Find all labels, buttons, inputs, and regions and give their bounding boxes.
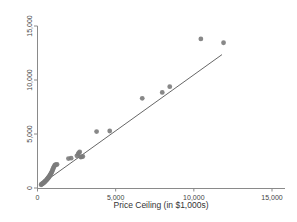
x-axis-title: Price Ceiling (in $1,000s)	[114, 200, 209, 210]
regression-line	[40, 55, 222, 185]
y-tick-label-group: 05,00010,00015,000	[26, 15, 33, 190]
data-point	[94, 129, 99, 134]
x-tick-label: 0	[36, 194, 40, 201]
data-point	[55, 162, 60, 167]
scatter-plot: 05,00010,00015,000 05,00010,00015,000 Pr…	[0, 0, 297, 222]
y-tick-label: 10,000	[26, 69, 33, 91]
chart-figure: 05,00010,00015,000 05,00010,00015,000 Pr…	[0, 0, 297, 222]
data-point	[80, 154, 85, 159]
y-tick-label: 15,000	[26, 15, 33, 37]
data-point-group	[39, 37, 226, 188]
y-tick-group	[34, 26, 38, 188]
data-point	[77, 150, 82, 155]
x-tick-label: 15,000	[261, 194, 283, 201]
data-point	[198, 37, 203, 42]
data-point	[221, 40, 226, 45]
y-tick-label: 5,000	[26, 125, 33, 143]
data-point	[69, 156, 74, 161]
y-tick-label: 0	[26, 186, 33, 190]
data-point	[107, 129, 112, 134]
data-point	[167, 84, 172, 89]
data-point	[140, 96, 145, 101]
data-point	[160, 90, 165, 95]
